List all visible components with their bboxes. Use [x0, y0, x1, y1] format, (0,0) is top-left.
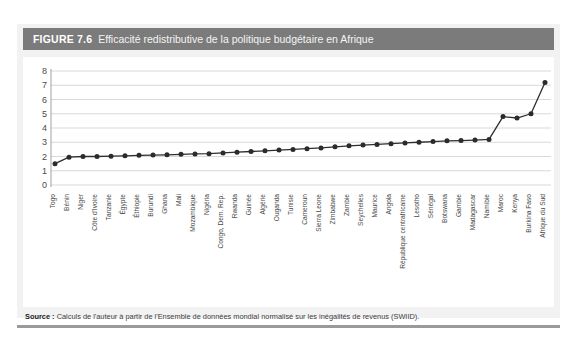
x-axis-category-label: Angola	[385, 194, 393, 215]
data-point	[501, 114, 506, 119]
data-point	[165, 152, 170, 157]
x-axis-category-label: Rwanda	[231, 194, 238, 219]
source-text: Calculs de l'auteur à partir de l'Ensemb…	[55, 312, 420, 321]
figure-title: Efficacité redistributive de la politiqu…	[98, 33, 373, 45]
data-point	[389, 141, 394, 146]
x-axis-category-label: Nigéria	[203, 194, 211, 215]
data-point	[95, 154, 100, 159]
chart-plot-area: 012345678 TogoBéninNigerCôte d'IvoireTan…	[23, 57, 554, 307]
y-axis-tick-label: 7	[42, 80, 47, 90]
figure-number: FIGURE 7.6	[33, 33, 92, 45]
data-point	[109, 154, 114, 159]
data-point	[431, 139, 436, 144]
x-axis-category-label: Seychelles	[357, 193, 365, 226]
x-axis-category-label: Congo, Dem. Rep.	[217, 194, 225, 249]
x-axis-category-label: Cameroun	[301, 194, 308, 225]
x-axis-category-label: Maroc	[497, 193, 504, 212]
figure-header: FIGURE 7.6 Efficacité redistributive de …	[23, 28, 554, 50]
y-axis-tick-label: 5	[42, 109, 47, 119]
data-series-group	[53, 80, 548, 166]
gridlines-group	[51, 71, 551, 185]
data-point	[249, 149, 254, 154]
x-axis-category-label: Tunisie	[287, 194, 294, 215]
x-axis-category-label: République centrafricaine	[399, 194, 407, 269]
x-axis-category-label: Kenya	[511, 194, 519, 213]
figure-panel: FIGURE 7.6 Efficacité redistributive de …	[17, 24, 560, 318]
x-axis-category-label: Madagascar	[469, 193, 477, 230]
source-label: Source :	[25, 312, 55, 321]
y-axis-tick-label: 1	[42, 166, 47, 176]
series-line	[55, 82, 545, 163]
y-axis-tick-label: 4	[42, 123, 47, 133]
data-point	[67, 155, 72, 160]
x-axis-category-label: Maurice	[371, 194, 378, 218]
data-point	[151, 153, 156, 158]
data-point	[53, 161, 58, 166]
data-point	[305, 146, 310, 151]
x-axis-category-label: Botswana	[441, 194, 448, 223]
x-axis-category-label: Sénégal	[427, 193, 435, 218]
data-point	[473, 138, 478, 143]
x-axis-labels-group: TogoBéninNigerCôte d'IvoireTanzanieÉgypt…	[49, 193, 547, 269]
x-axis-category-label: Gambie	[455, 194, 462, 217]
redistributive-efficiency-line-chart: 012345678 TogoBéninNigerCôte d'IvoireTan…	[23, 57, 554, 307]
x-axis-category-label: Burundi	[147, 193, 154, 216]
data-point	[543, 80, 548, 85]
x-axis-category-label: Éthiopie	[132, 194, 141, 218]
x-axis-category-label: Côte d'Ivoire	[91, 194, 98, 231]
y-axis-tick-label: 6	[42, 95, 47, 105]
data-point	[417, 140, 422, 145]
x-axis-category-label: Niger	[77, 193, 85, 210]
data-point	[515, 116, 520, 121]
x-axis-category-label: Mali	[175, 193, 182, 206]
x-axis-category-label: Bénin	[63, 194, 70, 211]
x-axis-category-label: Namibie	[483, 194, 490, 219]
data-point	[347, 143, 352, 148]
chart-card: 012345678 TogoBéninNigerCôte d'IvoireTan…	[23, 57, 554, 307]
x-axis-category-label: Zimbabwe	[329, 194, 336, 225]
data-point	[277, 148, 282, 153]
data-point	[487, 137, 492, 142]
data-point	[333, 144, 338, 149]
x-axis-category-label: Ouganda	[273, 194, 281, 221]
x-axis-category-label: Sierra Leone	[315, 194, 322, 232]
x-axis-category-label: Lesotho	[413, 194, 420, 218]
data-point	[207, 151, 212, 156]
x-axis-category-label: Zambie	[343, 194, 350, 216]
x-axis-category-label: Mozambique	[189, 194, 197, 232]
data-point	[291, 147, 296, 152]
x-axis-category-label: Ghana	[161, 194, 168, 214]
data-point	[375, 142, 380, 147]
data-point	[193, 151, 198, 156]
data-point	[123, 153, 128, 158]
y-axis-tick-label: 3	[42, 137, 47, 147]
data-point	[361, 143, 366, 148]
data-point	[529, 111, 534, 116]
x-axis-category-label: Burkina Faso	[525, 194, 532, 233]
x-axis-category-label: Guinée	[245, 194, 252, 216]
data-point	[459, 138, 464, 143]
x-axis-category-label: Tanzanie	[105, 194, 112, 221]
data-point	[263, 148, 268, 153]
y-axis-ticks-group: 012345678	[42, 66, 47, 190]
bottom-divider	[17, 325, 560, 328]
x-axis-category-label: Afrique du Sud	[539, 194, 547, 238]
data-point	[221, 150, 226, 155]
data-point	[137, 153, 142, 158]
y-axis-tick-label: 0	[42, 180, 47, 190]
data-point	[179, 152, 184, 157]
data-point	[235, 150, 240, 155]
source-note: Source : Calculs de l'auteur à partir de…	[25, 312, 550, 322]
data-point	[403, 140, 408, 145]
x-axis-category-label: Algérie	[259, 194, 267, 215]
data-point	[445, 138, 450, 143]
data-point	[81, 154, 86, 159]
y-axis-tick-label: 2	[42, 152, 47, 162]
y-axis-tick-label: 8	[42, 66, 47, 76]
x-axis-category-label: Égypte	[118, 194, 127, 215]
data-point	[319, 145, 324, 150]
x-axis-category-label: Togo	[49, 194, 57, 209]
